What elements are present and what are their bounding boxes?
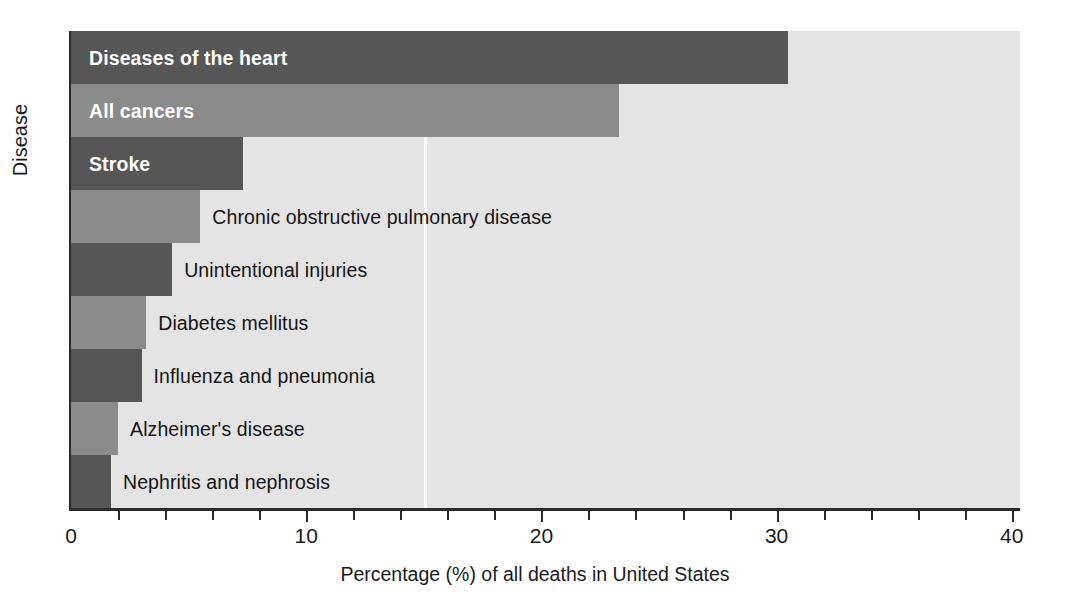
x-axis-tick <box>824 511 826 520</box>
x-axis-tick <box>777 511 779 522</box>
x-axis-tick <box>306 511 308 522</box>
bar-label: Diabetes mellitus <box>158 311 308 334</box>
bar[interactable] <box>71 455 111 508</box>
bar-row: Chronic obstructive pulmonary disease <box>71 190 1020 243</box>
x-axis-tick <box>683 511 685 520</box>
bar[interactable] <box>71 243 172 296</box>
x-axis-tick <box>118 511 120 520</box>
y-axis-label: Disease <box>0 55 40 225</box>
bar[interactable] <box>71 349 142 402</box>
x-axis-tick <box>212 511 214 520</box>
bar-label: Chronic obstructive pulmonary disease <box>212 205 552 228</box>
bar-row: All cancers <box>71 84 1020 137</box>
x-axis-tick <box>353 511 355 520</box>
bar-row: Alzheimer's disease <box>71 402 1020 455</box>
x-axis-tick-label: 10 <box>295 524 318 548</box>
x-axis-tick <box>165 511 167 520</box>
x-axis-tick-label: 0 <box>65 524 77 548</box>
bar-label: Nephritis and nephrosis <box>123 470 330 493</box>
x-axis-tick <box>635 511 637 520</box>
bar-row: Unintentional injuries <box>71 243 1020 296</box>
bar-label: Alzheimer's disease <box>130 417 305 440</box>
bar[interactable] <box>71 402 118 455</box>
x-axis-tick <box>730 511 732 520</box>
x-axis-label: Percentage (%) of all deaths in United S… <box>0 563 1070 586</box>
chart-figure: Disease Diseases of the heartAll cancers… <box>0 0 1070 608</box>
x-axis-tick <box>541 511 543 522</box>
x-axis-tick <box>1012 511 1014 522</box>
x-axis-tick <box>400 511 402 520</box>
x-axis-tick <box>965 511 967 520</box>
x-axis-tick <box>259 511 261 520</box>
bar-label: Unintentional injuries <box>184 258 367 281</box>
bar-label: All cancers <box>89 99 194 122</box>
x-axis-tick <box>588 511 590 520</box>
x-axis-tick <box>918 511 920 520</box>
bar[interactable] <box>71 190 200 243</box>
x-axis-tick <box>447 511 449 520</box>
bar-row: Diseases of the heart <box>71 31 1020 84</box>
bar-label: Stroke <box>89 152 150 175</box>
x-axis-tick-label: 20 <box>530 524 553 548</box>
x-axis-tick <box>494 511 496 520</box>
plot-area: Diseases of the heartAll cancersStrokeCh… <box>71 31 1020 508</box>
bar[interactable] <box>71 296 146 349</box>
x-axis-tick-label: 40 <box>1000 524 1023 548</box>
bar-label: Diseases of the heart <box>89 46 287 69</box>
bar-label: Influenza and pneumonia <box>154 364 375 387</box>
x-axis-tick <box>871 511 873 520</box>
x-axis-tick-label: 30 <box>765 524 788 548</box>
bar-row: Nephritis and nephrosis <box>71 455 1020 508</box>
bar-row: Diabetes mellitus <box>71 296 1020 349</box>
bar-row: Influenza and pneumonia <box>71 349 1020 402</box>
bar-row: Stroke <box>71 137 1020 190</box>
